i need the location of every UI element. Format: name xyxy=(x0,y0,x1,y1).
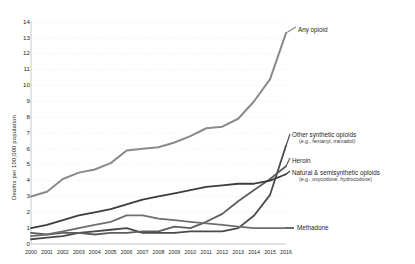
series-label-methadone: Methadone xyxy=(297,224,329,231)
y-tick-label: 9 xyxy=(12,98,30,104)
y-tick-label: 10 xyxy=(12,82,30,88)
opioid-overdose-death-rate-chart: Deaths per 100,000 population 0123456789… xyxy=(0,0,415,264)
series-label-text: Other synthetic opioids xyxy=(292,131,356,138)
series-label-text: Natural & semisynthetic opioids xyxy=(292,169,380,176)
series-label-sublabel: (e.g., oxycodone, hydrocodone) xyxy=(292,176,380,182)
y-tick-label: 2 xyxy=(12,209,30,215)
series-label-sublabel: (e.g., fentanyl, tramadol) xyxy=(292,138,356,144)
y-tick-label: 5 xyxy=(12,161,30,167)
label-leader-line xyxy=(286,158,290,166)
series-label-other-synthetic: Other synthetic opioids(e.g., fentanyl, … xyxy=(292,131,356,145)
series-label-text: Heroin xyxy=(292,157,311,164)
y-tick-label: 14 xyxy=(12,19,30,25)
label-leader-line xyxy=(286,134,290,146)
y-tick-label: 11 xyxy=(12,66,30,72)
series-line-other-synthetic-opioids xyxy=(31,146,286,240)
y-tick-label: 6 xyxy=(12,146,30,152)
label-leader-line xyxy=(286,27,296,33)
series-line-any-opioid xyxy=(31,33,286,196)
y-tick-label: 3 xyxy=(12,193,30,199)
y-tick-label: 12 xyxy=(12,50,30,56)
y-tick-label: 0 xyxy=(12,241,30,247)
y-tick-label: 7 xyxy=(12,130,30,136)
y-tick-label: 8 xyxy=(12,114,30,120)
series-label-any-opioid: Any opioid xyxy=(298,26,327,33)
y-tick-label: 4 xyxy=(12,177,30,183)
series-label-heroin: Heroin xyxy=(292,157,311,164)
y-tick-label: 13 xyxy=(12,35,30,41)
series-label-text: Methadone xyxy=(297,224,329,231)
x-tick-label: 2016 xyxy=(273,250,299,255)
methadone-legend-swatch xyxy=(285,227,294,229)
label-leader-line xyxy=(286,171,290,174)
series-label-text: Any opioid xyxy=(298,26,327,33)
series-label-natural-semisynthetic: Natural & semisynthetic opioids(e.g., ox… xyxy=(292,169,380,183)
y-tick-label: 1 xyxy=(12,225,30,231)
